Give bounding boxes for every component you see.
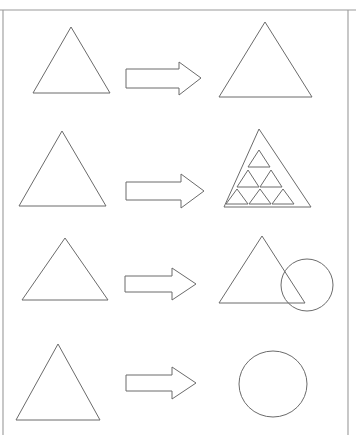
row-3 — [22, 236, 333, 311]
inner-triangle-shape — [237, 170, 259, 187]
triangle-shape — [219, 22, 312, 97]
inner-triangle-shape — [226, 189, 248, 204]
row-1 — [33, 22, 312, 97]
inner-triangles-group — [226, 150, 294, 204]
diagram-canvas — [0, 0, 356, 435]
arrow-right-icon — [125, 268, 196, 300]
row-2 — [19, 129, 311, 208]
inner-triangle-shape — [249, 189, 271, 204]
triangle-shape — [33, 27, 110, 93]
row-4 — [16, 344, 307, 420]
triangle-shape — [16, 344, 100, 420]
arrow-right-icon — [126, 62, 201, 95]
arrow-right-icon — [126, 174, 204, 208]
triangle-shape — [224, 129, 311, 207]
arrow-right-icon — [126, 367, 196, 399]
inner-triangle-shape — [272, 189, 294, 204]
circle-shape — [239, 351, 307, 417]
inner-triangle-shape — [248, 150, 270, 167]
shape-transformation-diagram — [0, 0, 356, 435]
triangle-shape — [19, 131, 106, 206]
inner-triangle-shape — [260, 170, 282, 187]
triangle-shape — [219, 236, 305, 303]
triangle-shape — [22, 238, 108, 300]
